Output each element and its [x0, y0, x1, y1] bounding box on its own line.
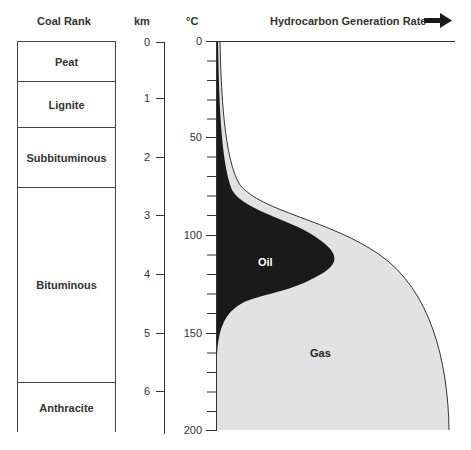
generation-chart: Oil Gas: [0, 0, 471, 450]
arrow-right-icon: [424, 13, 452, 28]
gas-label: Gas: [310, 347, 331, 359]
oil-label: Oil: [258, 256, 273, 268]
km-axis: [156, 42, 165, 434]
